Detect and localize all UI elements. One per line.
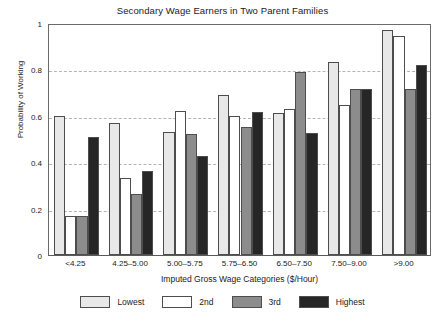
x-axis-label: Imputed Gross Wage Categories ($/Hour) (48, 274, 431, 284)
bar (142, 171, 153, 255)
x-tick-label: 4.25–5.00 (112, 259, 148, 268)
legend-item[interactable]: Lowest (80, 296, 144, 308)
bar (273, 113, 284, 255)
bar (109, 123, 120, 255)
bar (284, 109, 295, 255)
legend-item[interactable]: 3rd (232, 296, 281, 308)
legend-swatch-icon (162, 296, 192, 308)
bar (382, 30, 393, 255)
chart-figure: Secondary Wage Earners in Two Parent Fam… (0, 0, 445, 324)
legend-item[interactable]: 2nd (162, 296, 213, 308)
y-tick-label: 1 (0, 20, 42, 29)
x-tick-label: 5.00–5.75 (167, 259, 203, 268)
y-tick-label: 0.4 (0, 159, 42, 168)
y-tick-label: 0.2 (0, 205, 42, 214)
bar (76, 216, 87, 255)
legend-swatch-icon (299, 296, 329, 308)
bar (252, 112, 263, 255)
x-tick-label: >9.00 (394, 259, 414, 268)
y-tick-label: 0.6 (0, 112, 42, 121)
bar (306, 133, 317, 255)
bar (405, 89, 416, 255)
bar (175, 111, 186, 255)
x-tick-label: 5.75–6.50 (222, 259, 258, 268)
bar (393, 36, 404, 255)
legend-label: Highest (336, 297, 365, 307)
bar (361, 89, 372, 255)
bar (88, 137, 99, 255)
x-tick-label: 6.50–7.50 (276, 259, 312, 268)
bar (65, 216, 76, 255)
legend-item[interactable]: Highest (299, 296, 365, 308)
bar (416, 65, 427, 255)
y-tick-label: 0 (0, 252, 42, 261)
bar (131, 194, 142, 255)
bar (229, 116, 240, 255)
bar (218, 95, 229, 255)
bar (197, 156, 208, 255)
bar (241, 127, 252, 255)
x-tick-label: <4.25 (65, 259, 85, 268)
y-tick-label: 0.8 (0, 66, 42, 75)
x-tick-label: 7.50–9.00 (331, 259, 367, 268)
bar (339, 105, 350, 255)
y-axis-label: Probability of Working (16, 30, 25, 170)
bar (350, 89, 361, 255)
bar (328, 62, 339, 255)
bar (120, 178, 131, 255)
legend-label: 2nd (199, 297, 213, 307)
bar (163, 132, 174, 255)
chart-legend: Lowest2nd3rdHighest (0, 296, 445, 308)
chart-title: Secondary Wage Earners in Two Parent Fam… (0, 5, 445, 16)
plot-area (48, 24, 431, 256)
legend-swatch-icon (80, 296, 110, 308)
bar (295, 72, 306, 255)
bar (186, 134, 197, 255)
legend-label: 3rd (269, 297, 281, 307)
bar (54, 116, 65, 255)
legend-swatch-icon (232, 296, 262, 308)
bar-groups (49, 25, 430, 255)
legend-label: Lowest (117, 297, 144, 307)
